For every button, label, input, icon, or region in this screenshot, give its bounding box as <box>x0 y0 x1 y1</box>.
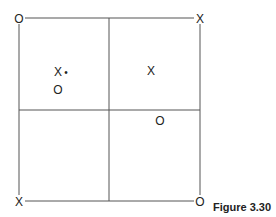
mark-upper-left-dot: • <box>64 67 68 78</box>
corner-bottom-left: X <box>15 195 23 209</box>
grid-diagram: O X X O X • O X O Figure 3.30 <box>0 0 276 217</box>
mark-upper-left-x: X <box>54 65 62 79</box>
corner-top-left: O <box>14 12 23 26</box>
mark-upper-left-o: O <box>53 83 62 97</box>
corner-top-right: X <box>196 12 204 26</box>
figure-caption: Figure 3.30 <box>213 201 271 213</box>
mark-upper-right-x: X <box>147 64 155 78</box>
mark-lower-right-o: O <box>155 114 164 128</box>
corner-bottom-right: O <box>195 195 204 209</box>
